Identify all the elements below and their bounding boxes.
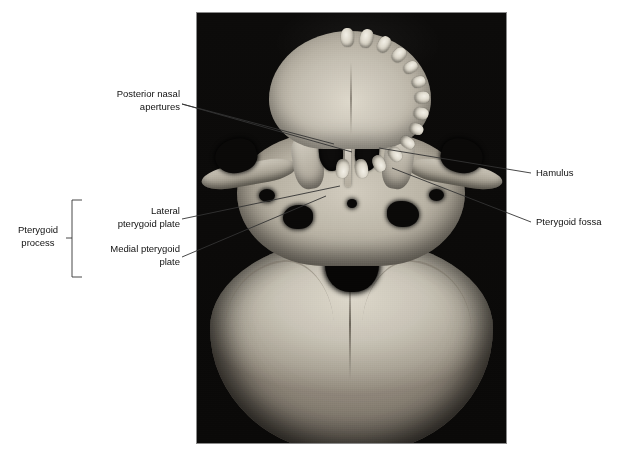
label-lateral-pterygoid-plate: Lateral pterygoid plate: [95, 205, 180, 230]
skull-photograph: [197, 13, 506, 443]
jugular-foramen-left: [283, 205, 313, 229]
foramen-ovale-left: [259, 189, 275, 202]
tooth: [414, 91, 430, 104]
tooth: [375, 34, 394, 55]
tooth: [358, 28, 375, 49]
label-hamulus: Hamulus: [536, 167, 596, 180]
label-posterior-nasal-apertures: Posterior nasal apertures: [96, 88, 180, 113]
tooth: [410, 74, 427, 89]
basilar-foramen: [347, 199, 357, 208]
photo-background: [197, 13, 506, 443]
label-pterygoid-fossa: Pterygoid fossa: [536, 216, 622, 229]
tooth: [413, 106, 430, 120]
tooth: [398, 134, 417, 152]
tooth: [389, 45, 409, 65]
foramen-ovale-right: [429, 189, 444, 201]
label-medial-pterygoid-plate: Medial pterygoid plate: [88, 243, 180, 268]
tooth: [408, 121, 425, 137]
anatomy-figure: Posterior nasal apertures Lateral pteryg…: [0, 0, 622, 450]
label-pterygoid-process: Pterygoid process: [10, 224, 66, 249]
maxillary-dental-arch: [269, 25, 431, 151]
tooth: [401, 58, 420, 75]
jugular-foramen-right: [387, 201, 419, 227]
tooth: [341, 27, 355, 46]
pterygoid-process-bracket: [66, 200, 82, 277]
